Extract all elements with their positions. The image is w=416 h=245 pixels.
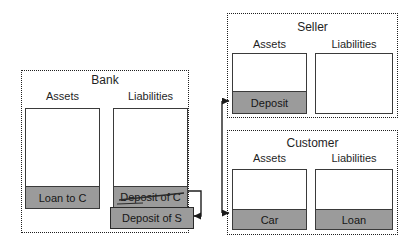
customer-car-band: Car: [233, 209, 306, 229]
seller-deposit-label: Deposit: [251, 97, 288, 109]
customer-car-label: Car: [261, 214, 279, 226]
bank-title: Bank: [22, 74, 188, 87]
customer-assets-box: Car: [232, 169, 307, 230]
figure-canvas: Bank Assets Liabilities Loan to C Deposi…: [0, 0, 416, 245]
customer-loan-band: Loan: [316, 209, 392, 229]
seller-title: Seller: [228, 21, 397, 34]
bank-loan-to-c-band: Loan to C: [26, 186, 99, 208]
seller-liabilities-box: [315, 53, 393, 114]
bank-deposit-of-s-label: Deposit of S: [122, 212, 182, 224]
seller-balance-sheet-group: Seller Assets Liabilities Deposit: [227, 13, 398, 118]
bank-deposit-of-s-box: Deposit of S: [110, 207, 194, 229]
seller-deposit-band: Deposit: [233, 91, 306, 113]
bank-balance-sheet-group: Bank Assets Liabilities Loan to C Deposi…: [21, 70, 189, 233]
bank-loan-to-c-label: Loan to C: [39, 192, 87, 204]
customer-title: Customer: [228, 137, 397, 150]
seller-assets-header: Assets: [232, 38, 307, 50]
bank-liabilities-box: Deposit of C: [113, 108, 188, 208]
bank-deposit-of-c-label: Deposit of C: [120, 191, 181, 203]
bank-assets-header: Assets: [25, 90, 100, 102]
customer-liabilities-box: Loan: [315, 169, 393, 230]
bank-deposit-of-c-band: Deposit of C: [114, 186, 187, 207]
customer-assets-header: Assets: [232, 152, 307, 164]
seller-liabilities-header: Liabilities: [315, 38, 393, 50]
bank-liabilities-header: Liabilities: [113, 90, 188, 102]
bank-assets-box: Loan to C: [25, 108, 100, 209]
seller-assets-box: Deposit: [232, 53, 307, 114]
customer-balance-sheet-group: Customer Assets Liabilities Car Loan: [227, 130, 398, 235]
customer-liabilities-header: Liabilities: [315, 152, 393, 164]
customer-loan-label: Loan: [342, 214, 366, 226]
